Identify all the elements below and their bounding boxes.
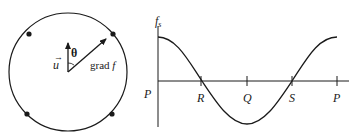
point-top-right	[110, 31, 115, 36]
gradient-label: grad f	[90, 59, 117, 71]
x-label-R: R	[196, 91, 205, 105]
x-label-S: S	[289, 91, 295, 105]
y-axis-label: fs	[155, 14, 161, 29]
circle-diagram: u → θ grad f	[9, 13, 127, 131]
figure: u → θ grad f fs P R Q S P	[0, 0, 351, 136]
point-top-left	[26, 31, 31, 36]
x-label-P-end: P	[332, 91, 341, 105]
fs-plot: fs P R Q S P	[143, 14, 349, 127]
x-label-P-start: P	[143, 87, 152, 101]
x-label-Q: Q	[243, 91, 252, 105]
angle-arc	[68, 63, 74, 65]
point-bottom-right	[109, 111, 114, 116]
point-bottom-left	[24, 111, 29, 116]
vector-u-hat: →	[54, 52, 63, 62]
angle-theta-label: θ	[71, 46, 77, 60]
